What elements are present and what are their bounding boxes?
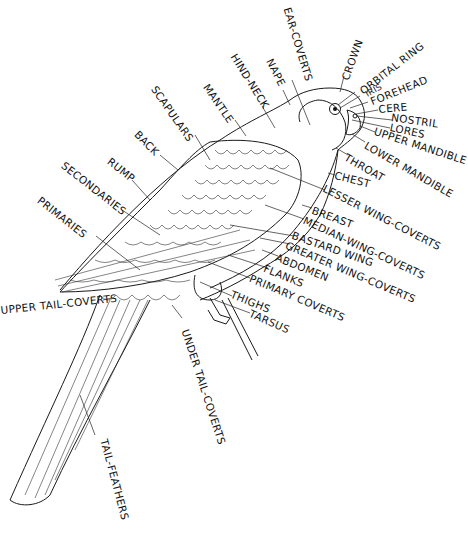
eye-pupil <box>333 107 337 111</box>
tail <box>10 295 150 505</box>
wing-scallops <box>70 150 289 282</box>
head-face-outline <box>299 100 346 150</box>
tarsus-foot <box>208 298 230 324</box>
